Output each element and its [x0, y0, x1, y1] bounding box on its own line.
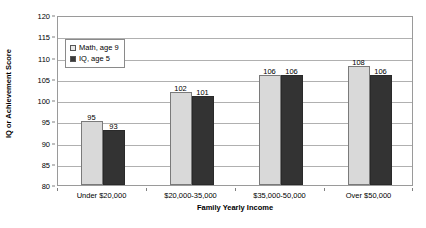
y-axis-tick-labels: 80859095100105110115120	[16, 16, 55, 186]
x-axis-tick-label: Over $50,000	[346, 191, 391, 200]
x-axis-tick-label: $35,000-50,000	[253, 191, 306, 200]
bar	[103, 130, 125, 185]
x-axis-tick-mark	[146, 188, 147, 191]
bar	[81, 121, 103, 185]
x-axis-tick-mark	[235, 188, 236, 191]
bar	[281, 75, 303, 186]
bar-value-label: 106	[370, 67, 392, 76]
bar	[370, 75, 392, 186]
y-axis-tick-mark	[52, 101, 55, 102]
y-axis-tick-label: 115	[38, 33, 50, 42]
y-axis-tick-mark	[52, 143, 55, 144]
x-axis-tick-labels: Under $20,000$20,000-35,000$35,000-50,00…	[57, 188, 413, 202]
y-axis-tick-label: 110	[38, 54, 50, 63]
y-axis-tick-label: 90	[42, 139, 50, 148]
bar-value-label: 93	[103, 122, 125, 131]
y-axis-title: IQ or Achievement Score	[0, 0, 16, 186]
y-axis-tick-mark	[52, 16, 55, 17]
bar-value-label: 95	[81, 113, 103, 122]
bar-value-label: 106	[259, 67, 281, 76]
x-axis-title: Family Yearly Income	[57, 203, 413, 212]
legend-label-math: Math, age 9	[79, 43, 119, 52]
y-axis-tick-label: 100	[37, 97, 50, 106]
bar	[170, 92, 192, 186]
y-axis-tick-mark	[52, 164, 55, 165]
y-axis-tick-mark	[52, 37, 55, 38]
legend-label-iq: IQ, age 5	[79, 54, 110, 63]
y-axis-tick-mark	[52, 186, 55, 187]
legend-swatch-math-icon	[70, 45, 76, 51]
bar-value-label: 102	[170, 84, 192, 93]
legend-entry: Math, age 9	[70, 42, 119, 53]
legend-entry: IQ, age 5	[70, 53, 119, 64]
bar	[192, 96, 214, 185]
bar-value-label: 108	[348, 58, 370, 67]
y-axis-tick-label: 95	[42, 118, 50, 127]
y-axis-tick-mark	[52, 58, 55, 59]
y-axis-tick-mark	[52, 122, 55, 123]
y-axis-tick-mark	[52, 79, 55, 80]
plot-area: 9593102101106106108106 Math, age 9 IQ, a…	[57, 16, 413, 186]
y-axis-tick-label: 80	[42, 182, 50, 191]
bar	[348, 66, 370, 185]
bar-value-label: 106	[281, 67, 303, 76]
x-axis-tick-mark	[57, 188, 58, 191]
chart-legend: Math, age 9 IQ, age 5	[65, 39, 125, 68]
y-axis-tick-label: 105	[37, 75, 50, 84]
bar	[259, 75, 281, 186]
x-axis-tick-mark	[412, 188, 413, 191]
y-axis-title-text: IQ or Achievement Score	[4, 49, 13, 138]
bar-chart: IQ or Achievement Score 8085909510010511…	[0, 0, 426, 228]
x-axis-tick-label: Under $20,000	[77, 191, 127, 200]
x-axis-tick-label: $20,000-35,000	[164, 191, 217, 200]
legend-swatch-iq-icon	[70, 56, 76, 62]
y-axis-tick-label: 120	[37, 12, 50, 21]
y-axis-tick-label: 85	[42, 160, 50, 169]
x-axis-tick-mark	[324, 188, 325, 191]
bar-value-label: 101	[192, 88, 214, 97]
